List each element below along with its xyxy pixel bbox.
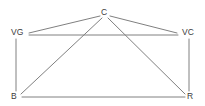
edge-c-b bbox=[21, 18, 102, 94]
node-label-r: R bbox=[187, 92, 193, 101]
node-label-vg: VG bbox=[11, 28, 23, 37]
node-label-vc: VC bbox=[182, 28, 194, 37]
node-label-b: B bbox=[11, 92, 17, 101]
graph-diagram: C VG VC B R bbox=[0, 0, 205, 106]
edge-c-r bbox=[108, 18, 185, 94]
edges-group bbox=[16, 16, 189, 97]
node-label-c: C bbox=[101, 8, 107, 17]
